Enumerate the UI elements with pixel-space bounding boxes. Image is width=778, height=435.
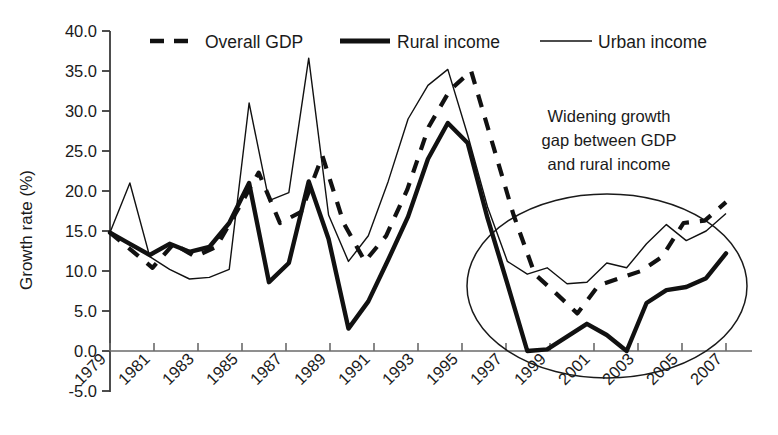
annotation-line-3: and rural income [548,155,671,173]
y-tick-label-25: 25.0 [65,142,97,160]
legend-label-rural-income: Rural income [397,32,500,52]
series-group [110,58,726,351]
legend-item-urban-income: Urban income [540,32,707,52]
x-tick-label-1981: 1981 [114,349,153,388]
legend-label-overall-gdp: Overall GDP [205,32,303,52]
widening-gap-annotation: Widening growth gap between GDP and rura… [542,107,677,173]
y-tick-label-15: 15.0 [65,222,97,240]
y-axis-title: Growth rate (%) [17,170,36,290]
chart-legend: Overall GDP Rural income Urban income [150,32,707,52]
y-axis: 40.0 35.0 30.0 25.0 20.0 15.0 10.0 5.0 0… [17,22,110,400]
y-tick-label-35: 35.0 [65,62,97,80]
x-tick-label-1995: 1995 [422,349,461,388]
x-tick-label-1987: 1987 [246,349,285,388]
y-tick-label-5: 5.0 [74,302,97,320]
chart-figure: 40.0 35.0 30.0 25.0 20.0 15.0 10.0 5.0 0… [0,0,778,435]
legend-item-rural-income: Rural income [340,32,500,52]
x-tick-label-1991: 1991 [334,349,373,388]
x-tick-label-1985: 1985 [202,349,241,388]
y-tick-label-20: 20.0 [65,182,97,200]
y-axis-ticks [102,31,110,391]
y-tick-label-10: 10.0 [65,262,97,280]
x-tick-label-1997: 1997 [466,349,505,388]
annotation-line-2: gap between GDP [542,131,677,149]
growth-rate-line-chart: 40.0 35.0 30.0 25.0 20.0 15.0 10.0 5.0 0… [0,0,778,435]
x-axis-ticks [110,343,726,351]
x-axis: 1979 1981 1983 1985 1987 1989 1991 1993 … [70,343,752,388]
x-tick-label-2005: 2005 [642,349,681,388]
x-tick-label-1989: 1989 [290,349,329,388]
y-tick-label-30: 30.0 [65,102,97,120]
x-tick-label-2007: 2007 [686,349,725,388]
legend-label-urban-income: Urban income [598,32,707,52]
x-tick-label-2003: 2003 [598,349,637,388]
legend-item-overall-gdp: Overall GDP [150,32,303,52]
x-tick-label-1983: 1983 [158,349,197,388]
annotation-line-1: Widening growth [548,107,671,125]
x-tick-label-2001: 2001 [554,349,593,388]
x-tick-label-1993: 1993 [378,349,417,388]
y-tick-label-40: 40.0 [65,22,97,40]
